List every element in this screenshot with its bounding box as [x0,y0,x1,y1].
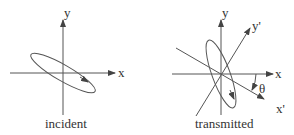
transmitted-x-prime-label: x' [276,101,285,116]
incident-caption: incident [45,116,87,132]
transmitted-ellipse-arrow-icon [230,90,234,99]
theta-arc [252,74,256,90]
transmitted-y-label: y [222,5,229,20]
transmitted-y-prime-axis [196,28,250,116]
incident-panel: x y [10,5,125,115]
incident-x-label: x [118,65,125,80]
incident-y-label: y [64,5,71,20]
transmitted-panel: x y y' x' θ [172,5,285,116]
polarization-diagram: x y x y y' x' θ [0,0,294,135]
transmitted-caption: transmitted [195,116,254,132]
theta-label: θ [259,81,265,96]
transmitted-x-label: x [275,66,282,81]
transmitted-y-prime-label: y' [252,18,261,33]
